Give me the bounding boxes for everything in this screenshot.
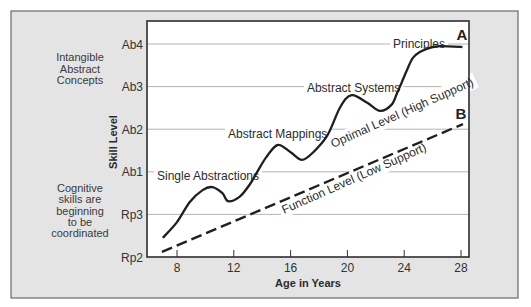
- x-tick-label: 24: [398, 261, 412, 275]
- skill-development-chart-figure: Single AbstractionsAbstract MappingsAbst…: [0, 0, 531, 307]
- y-tick-label: Rp3: [121, 208, 143, 222]
- side-note-line: coordinated: [51, 227, 109, 239]
- y-tick-label: Ab3: [122, 80, 144, 94]
- chart-svg: Single AbstractionsAbstract MappingsAbst…: [0, 0, 531, 307]
- x-tick-label: 8: [174, 261, 181, 275]
- annotation-label: Single Abstractions: [154, 168, 262, 184]
- x-tick-label: 12: [227, 261, 241, 275]
- side-note-upper: Intangible Abstract Concepts: [56, 51, 104, 86]
- annotation-text: Abstract Mappings: [228, 127, 327, 141]
- annotation-label: Principles: [390, 36, 448, 52]
- y-axis-title: Skill Level: [107, 115, 119, 169]
- x-tick-label: 28: [454, 261, 468, 275]
- side-note-line: skills are: [59, 193, 102, 205]
- y-tick-label: Rp2: [121, 251, 143, 265]
- series-marker-label: A: [457, 26, 468, 43]
- x-axis-title: Age in Years: [275, 277, 341, 289]
- y-tick-label: Ab1: [122, 165, 144, 179]
- series-marker-label: B: [456, 105, 467, 122]
- y-tick-label: Ab4: [122, 38, 144, 52]
- annotation-text: Single Abstractions: [157, 169, 259, 183]
- x-tick-label: 16: [284, 261, 298, 275]
- x-tick-label: 20: [341, 261, 355, 275]
- side-note-lower: Cognitive skills are beginning to be coo…: [51, 182, 109, 239]
- annotation-text: Principles: [393, 37, 445, 51]
- side-note-line: Concepts: [57, 74, 104, 86]
- annotation-label: Abstract Systems: [304, 80, 403, 96]
- annotation-text: Abstract Systems: [307, 81, 400, 95]
- annotation-label: Abstract Mappings: [225, 126, 330, 142]
- y-tick-label: Ab2: [122, 123, 144, 137]
- side-note-line: Intangible: [56, 51, 104, 63]
